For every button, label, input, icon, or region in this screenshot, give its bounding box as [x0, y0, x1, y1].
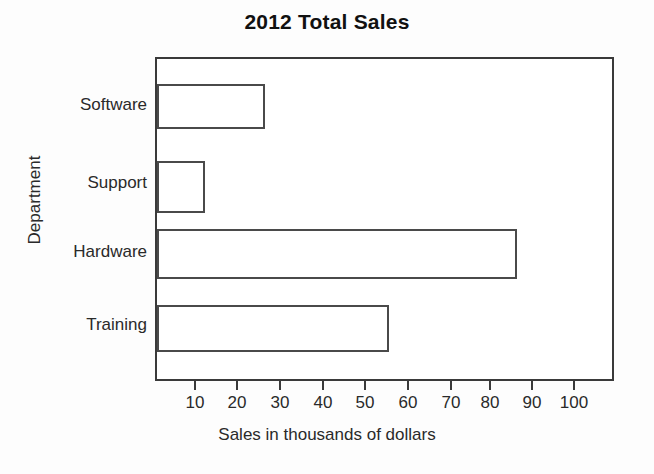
x-tick-mark — [489, 381, 491, 390]
x-tick-mark — [322, 381, 324, 390]
x-tick-mark — [450, 381, 452, 390]
x-tick-mark — [531, 381, 533, 390]
y-tick-label-support: Support — [0, 173, 147, 193]
x-tick-label: 100 — [544, 393, 604, 413]
bar-software[interactable] — [157, 84, 265, 129]
y-tick-label-hardware: Hardware — [0, 242, 147, 262]
y-tick-label-training: Training — [0, 315, 147, 335]
bar-support[interactable] — [157, 161, 205, 213]
x-tick-mark — [236, 381, 238, 390]
plot-area — [155, 57, 614, 381]
x-axis-title: Sales in thousands of dollars — [0, 425, 654, 445]
bar-hardware[interactable] — [157, 229, 517, 279]
bar-chart: 2012 Total Sales Department Software Sup… — [0, 0, 654, 474]
x-tick-mark — [279, 381, 281, 390]
x-tick-mark — [194, 381, 196, 390]
x-tick-mark — [407, 381, 409, 390]
chart-title: 2012 Total Sales — [0, 10, 654, 34]
x-tick-mark — [573, 381, 575, 390]
x-tick-mark — [364, 381, 366, 390]
y-tick-label-software: Software — [0, 95, 147, 115]
bar-training[interactable] — [157, 305, 389, 352]
